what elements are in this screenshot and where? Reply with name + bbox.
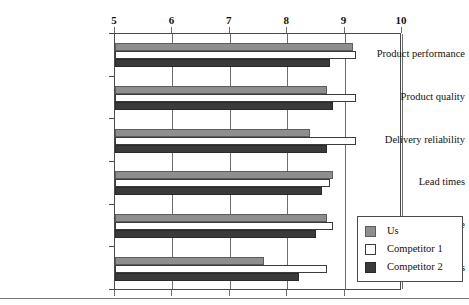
bar-chart: 5678910 Product performanceProduct quali… bbox=[0, 0, 469, 305]
gridline bbox=[287, 34, 288, 289]
x-axis-tick-mark bbox=[229, 290, 230, 296]
legend-swatch-us-icon bbox=[365, 226, 376, 237]
bar-c1-responsiveness bbox=[115, 265, 327, 273]
x-axis-tick-7: 7 bbox=[214, 14, 244, 26]
bar-c1-product-performance bbox=[115, 51, 356, 59]
bar-us-lead-times bbox=[115, 171, 333, 179]
bar-c2-responsiveness bbox=[115, 273, 299, 281]
bar-c2-lead-times bbox=[115, 187, 322, 195]
bar-us-product-performance bbox=[115, 43, 353, 51]
x-axis-tick-9: 9 bbox=[329, 14, 359, 26]
x-axis-baseline bbox=[114, 289, 401, 290]
gridline bbox=[172, 34, 173, 289]
y-axis-tick-mark bbox=[109, 76, 114, 77]
category-label-product-performance: Product performance bbox=[357, 48, 469, 60]
y-axis-tick-mark bbox=[109, 161, 114, 162]
bar-c1-delivery-reliability bbox=[115, 137, 356, 145]
x-axis-tick-mark bbox=[114, 290, 115, 296]
bar-c2-technical-service bbox=[115, 230, 316, 238]
x-axis-tick-8: 8 bbox=[271, 14, 301, 26]
legend-item-competitor-1: Competitor 1 bbox=[365, 240, 462, 258]
bar-us-responsiveness bbox=[115, 257, 264, 265]
legend-swatch-competitor-2-icon bbox=[365, 262, 376, 273]
bar-us-product-quality bbox=[115, 86, 327, 94]
y-axis-tick-mark bbox=[109, 204, 114, 205]
gridline bbox=[345, 34, 346, 289]
x-axis-tick-mark bbox=[401, 27, 402, 33]
legend-label-competitor-2: Competitor 2 bbox=[387, 261, 443, 273]
bar-c1-lead-times bbox=[115, 179, 330, 187]
category-label-lead-times: Lead times bbox=[357, 176, 469, 188]
legend-label-us: Us bbox=[387, 225, 399, 237]
legend-swatch-competitor-1-icon bbox=[365, 244, 376, 255]
chart-legend: Us Competitor 1 Competitor 2 bbox=[357, 216, 463, 282]
y-axis-tick-mark bbox=[109, 118, 114, 119]
category-label-delivery-reliability: Delivery reliability bbox=[357, 134, 469, 146]
x-axis-tick-5: 5 bbox=[99, 14, 129, 26]
x-axis-tick-mark bbox=[171, 290, 172, 296]
bar-us-delivery-reliability bbox=[115, 129, 310, 137]
category-label-product-quality: Product quality bbox=[357, 91, 469, 103]
x-axis-tick-10: 10 bbox=[386, 14, 416, 26]
y-axis-tick-mark bbox=[109, 33, 114, 34]
bar-c2-product-performance bbox=[115, 59, 330, 67]
bar-c2-product-quality bbox=[115, 102, 333, 110]
legend-item-competitor-2: Competitor 2 bbox=[365, 258, 462, 276]
legend-label-competitor-1: Competitor 1 bbox=[387, 243, 443, 255]
x-axis-tick-mark bbox=[344, 290, 345, 296]
y-axis-tick-mark bbox=[109, 246, 114, 247]
x-axis-tick-mark bbox=[286, 290, 287, 296]
bar-c1-technical-service bbox=[115, 222, 333, 230]
bar-us-technical-service bbox=[115, 214, 327, 222]
x-axis-tick-6: 6 bbox=[156, 14, 186, 26]
gridline bbox=[230, 34, 231, 289]
bar-c1-product-quality bbox=[115, 94, 356, 102]
bar-c2-delivery-reliability bbox=[115, 145, 327, 153]
bottom-divider bbox=[0, 298, 469, 299]
legend-item-us: Us bbox=[365, 222, 462, 240]
